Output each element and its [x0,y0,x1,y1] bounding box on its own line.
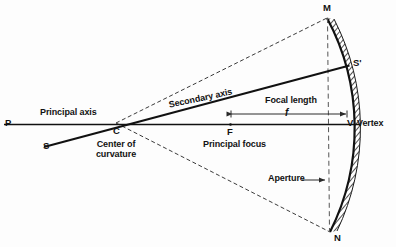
construction-line-c-to-m [116,18,327,123]
point-label-f: F [227,127,233,137]
focal-length-symbol-label: f [285,108,288,119]
point-label-m: M [323,3,331,13]
point-label-n: N [334,233,341,243]
point-label-s-prime: S' [353,58,361,68]
point-label-c: C [113,126,120,136]
point-label-s: S [43,141,49,151]
mirror-diagram-svg [0,0,396,247]
diagram-canvas: P S C F V M N S' Principal axis Secondar… [0,0,396,247]
center-of-curvature-line-2: curvature [84,150,148,160]
aperture-label: Aperture [268,174,305,184]
point-label-v: V [347,118,353,128]
point-label-p: P [5,118,11,128]
principal-axis-label: Principal axis [40,108,97,118]
principal-focus-label: Principal focus [203,140,266,150]
center-of-curvature-label: Center of curvature [84,140,148,159]
focal-length-label: Focal length [265,96,317,106]
vertex-label: Vertex [357,119,383,129]
